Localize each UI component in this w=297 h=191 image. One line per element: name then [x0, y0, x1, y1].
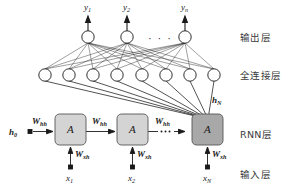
input-marker-1: [69, 165, 73, 169]
fc-node-5: [136, 69, 148, 81]
output-node-1: [82, 31, 94, 43]
fc-node-8: [208, 69, 220, 81]
hidden-state-fanout-edges: [45, 81, 214, 119]
fc-node-6: [160, 69, 172, 81]
output-ellipsis: · · ·: [148, 33, 173, 44]
fc-node-1: [39, 69, 51, 81]
input-weight-label-1: Wxh: [75, 150, 90, 159]
final-state-label: hN: [212, 96, 221, 105]
fully-connected-layer-nodes: [39, 69, 220, 81]
layer-label-output: 输出层: [240, 33, 271, 43]
rnn-cell-label-3: A: [204, 124, 211, 135]
recurrent-weight-label-1: Whh: [32, 117, 47, 126]
output-node-3: [179, 31, 191, 43]
initial-state-marker: [28, 130, 32, 134]
input-weight-label-2: Wxh: [137, 150, 152, 159]
input-marker-3: [206, 165, 210, 169]
recurrent-weight-label-2: Whh: [92, 117, 107, 126]
rnn-cells: [55, 114, 223, 145]
output-label-3: yn: [181, 3, 188, 12]
fc-node-7: [184, 69, 196, 81]
rnn-cell-label-1: A: [67, 124, 74, 135]
input-label-2: x2: [128, 174, 135, 183]
initial-state-label: h0: [9, 128, 17, 137]
output-label-2: y2: [123, 3, 130, 12]
layer-label-rnn: RNN层: [240, 130, 272, 140]
output-layer-nodes: [82, 31, 191, 43]
output-label-1: y1: [84, 3, 91, 12]
input-label-3: xN: [203, 174, 211, 183]
fc-to-output-edges: [45, 43, 214, 69]
input-label-1: x1: [66, 174, 73, 183]
input-marker-2: [131, 165, 135, 169]
rnn-architecture-figure: y1 y2 yn · · · hN h0 Whh Whh Whh A A A W…: [0, 0, 297, 191]
rnn-cell-label-2: A: [129, 124, 136, 135]
output-node-2: [121, 31, 133, 43]
fc-node-2: [63, 69, 75, 81]
recurrent-weight-label-3: Whh: [155, 117, 170, 126]
fc-node-3: [87, 69, 99, 81]
diagram-canvas: [0, 0, 297, 191]
fc-node-4: [111, 69, 123, 81]
output-arrows: [86, 16, 188, 31]
layer-label-input: 输入层: [240, 170, 271, 180]
layer-label-fully-connected: 全连接层: [240, 71, 281, 81]
recurrent-ellipsis-dots: [161, 131, 171, 133]
input-weight-label-3: Wxh: [212, 150, 227, 159]
